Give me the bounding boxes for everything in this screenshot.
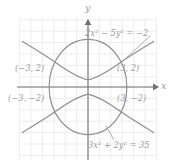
point-label-lower-left: (−3, −2) [8, 93, 44, 103]
ellipse-equation-label: 3x² + 2y² = 35 [88, 140, 150, 150]
point-label-upper-right: (3, 2) [117, 63, 139, 73]
math-figure: y x 2x² − 5y² = −2 3x² + 2y² = 35 (−3, 2… [0, 0, 174, 167]
point-label-lower-right: (3, −2) [117, 93, 146, 103]
hyperbola-leader-line [124, 36, 150, 60]
x-axis-label: x [161, 80, 166, 91]
hyperbola-equation-label: 2x² − 5y² = −2 [85, 28, 148, 38]
ellipse-equation-text: 3x² + 2y² = 35 [88, 140, 150, 150]
point-label-upper-left: (−3, 2) [15, 63, 44, 73]
hyperbola-equation-text: 2x² − 5y² = −2 [85, 28, 148, 38]
y-axis-label: y [85, 2, 90, 13]
